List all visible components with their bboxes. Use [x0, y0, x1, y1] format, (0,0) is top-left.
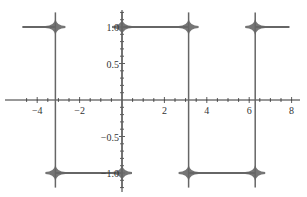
y-tick-label: 0.5: [107, 59, 120, 70]
y-tick-label: 1.0: [107, 22, 120, 33]
y-tick-label: −0.5: [101, 132, 119, 143]
chart: −4−224681.00.5−0.5−1.0: [0, 0, 307, 197]
x-tick-label: 6: [247, 105, 252, 116]
x-tick-label: 8: [289, 105, 294, 116]
plot-area: −4−224681.00.5−0.5−1.0: [0, 0, 307, 197]
x-tick-label: −2: [74, 105, 85, 116]
y-tick-label: −1.0: [101, 168, 119, 179]
x-tick-label: 2: [162, 105, 167, 116]
x-tick-label: 4: [204, 105, 209, 116]
x-tick-label: −4: [32, 105, 43, 116]
